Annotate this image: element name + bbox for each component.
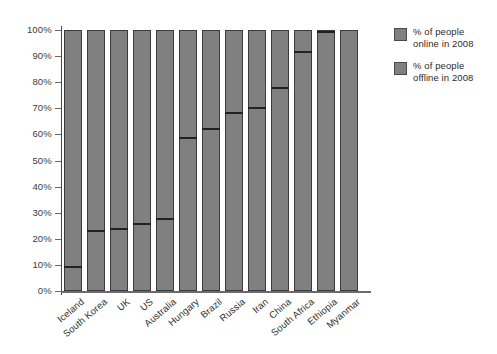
y-tick-mark [55, 82, 61, 83]
y-tick-label: 100% [27, 24, 52, 35]
y-tick-label: 90% [32, 50, 52, 61]
legend-label-offline: % of people offline in 2008 [413, 60, 474, 83]
legend-label-offline-line1: % of people [413, 60, 464, 71]
y-tick-label: 70% [32, 102, 52, 113]
y-tick-label: 10% [32, 259, 52, 270]
y-tick-label: 60% [32, 128, 52, 139]
legend-swatch-online-icon [394, 28, 407, 41]
y-tick-label: 30% [32, 207, 52, 218]
legend-swatch-offline-icon [394, 62, 407, 75]
bar-iceland[interactable] [64, 30, 82, 291]
bar-segment-divider [225, 112, 243, 114]
x-axis-line [61, 291, 371, 293]
bar-segment-divider [271, 87, 289, 89]
x-tick-label: UK [115, 296, 132, 313]
bar-segment-divider [294, 51, 312, 53]
legend-label-online-line2: online in 2008 [413, 38, 474, 49]
y-axis-line [61, 26, 62, 295]
bar-south-africa[interactable] [294, 30, 312, 291]
y-tick-mark [55, 30, 61, 31]
legend-label-online: % of people online in 2008 [413, 26, 474, 49]
legend-label-online-line1: % of people [413, 26, 464, 37]
bar-segment-divider [133, 223, 151, 225]
y-tick-mark [55, 213, 61, 214]
bar-segment-divider [87, 230, 105, 232]
y-tick-label: 40% [32, 181, 52, 192]
y-tick-mark [55, 239, 61, 240]
legend-item-offline[interactable]: % of people offline in 2008 [394, 60, 494, 83]
bar-south-korea[interactable] [87, 30, 105, 291]
bar-brazil[interactable] [202, 30, 220, 291]
bar-segment-divider [202, 128, 220, 130]
chart-legend: % of people online in 2008 % of people o… [394, 26, 494, 94]
bar-ethiopia[interactable] [317, 30, 335, 291]
bar-australia[interactable] [156, 30, 174, 291]
legend-item-online[interactable]: % of people online in 2008 [394, 26, 494, 49]
bar-myanmar[interactable] [340, 30, 358, 291]
y-tick-label: 50% [32, 155, 52, 166]
bar-segment-divider [64, 266, 82, 268]
bar-segment-divider [317, 31, 335, 33]
y-tick-mark [55, 56, 61, 57]
bar-us[interactable] [133, 30, 151, 291]
y-tick-label: 20% [32, 233, 52, 244]
bar-segment-divider [179, 137, 197, 139]
x-tick-label: Russia [217, 296, 247, 323]
bar-segment-divider [156, 218, 174, 220]
y-tick-mark [55, 265, 61, 266]
y-tick-label: 80% [32, 76, 52, 87]
bar-iran[interactable] [248, 30, 266, 291]
legend-label-offline-line2: offline in 2008 [413, 72, 474, 83]
bar-china[interactable] [271, 30, 289, 291]
bar-segment-divider [110, 228, 128, 230]
y-tick-mark [55, 161, 61, 162]
bar-russia[interactable] [225, 30, 243, 291]
y-tick-mark [55, 291, 61, 292]
bar-segment-divider [248, 107, 266, 109]
y-tick-mark [55, 134, 61, 135]
stacked-bar-chart: 0%10%20%30%40%50%60%70%80%90%100% Icelan… [0, 0, 497, 354]
bar-segment-divider [340, 30, 358, 32]
bar-hungary[interactable] [179, 30, 197, 291]
y-tick-mark [55, 187, 61, 188]
y-tick-mark [55, 108, 61, 109]
bar-uk[interactable] [110, 30, 128, 291]
y-tick-label: 0% [38, 285, 52, 296]
